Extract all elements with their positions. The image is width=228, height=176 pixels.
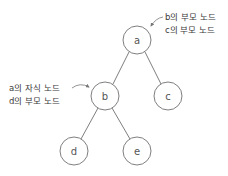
edge-b-e <box>112 108 130 139</box>
tree-diagram: a b c d e b의 부모 노드 c의 부모 노드 a의 자식 노드 d의 … <box>0 0 228 176</box>
annotation-a-line-2: c의 부모 노드 <box>165 25 215 35</box>
arrow-icon <box>151 17 163 26</box>
annotation-b-line-1: a의 자식 노드 <box>9 83 60 93</box>
node-e: e <box>123 137 151 165</box>
edge-b-d <box>81 108 98 139</box>
arrow-icon <box>72 85 89 88</box>
node-a: a <box>123 26 151 54</box>
node-a-label: a <box>134 35 140 46</box>
node-d-label: d <box>71 146 77 157</box>
node-c-label: c <box>165 91 171 102</box>
node-c: c <box>154 82 182 110</box>
node-d: d <box>60 137 88 165</box>
annotation-b-line-2: d의 부모 노드 <box>9 96 60 106</box>
annotation-node-a: b의 부모 노드 c의 부모 노드 <box>151 12 216 35</box>
annotation-node-b: a의 자식 노드 d의 부모 노드 <box>9 83 89 106</box>
edge-a-b <box>113 52 129 84</box>
edge-a-c <box>145 52 161 84</box>
annotation-a-line-1: b의 부모 노드 <box>165 12 216 22</box>
node-b: b <box>91 82 119 110</box>
node-e-label: e <box>134 146 140 157</box>
node-b-label: b <box>102 91 108 102</box>
